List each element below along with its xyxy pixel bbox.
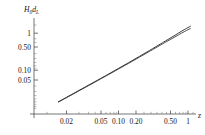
x-tick-label-0.20: 0.20 bbox=[130, 117, 143, 126]
x-axis-ticks bbox=[47, 111, 193, 115]
x-tick-label-1: 1 bbox=[186, 117, 190, 126]
data-curve-upper bbox=[58, 26, 191, 102]
x-tick-label-0.05: 0.05 bbox=[95, 117, 108, 126]
y-tick-label-0.50: 0.50 bbox=[18, 43, 31, 52]
chart-figure: H0dL 1 0.50 bbox=[0, 0, 205, 135]
y-axis-title: H0dL bbox=[23, 5, 39, 15]
x-tick-label-0.02: 0.02 bbox=[60, 117, 73, 126]
y-axis-ticks bbox=[34, 25, 38, 108]
y-tick-label-0.10: 0.10 bbox=[18, 66, 31, 75]
log-log-plot: H0dL 1 0.50 bbox=[0, 0, 205, 135]
x-tick-label-0.50: 0.50 bbox=[164, 117, 177, 126]
y-tick-label-1: 1 bbox=[27, 29, 31, 38]
data-curve-lower bbox=[58, 28, 191, 102]
y-tick-label-0.05: 0.05 bbox=[18, 76, 31, 85]
x-axis-title: z bbox=[197, 111, 201, 120]
x-tick-label-0.10: 0.10 bbox=[112, 117, 125, 126]
